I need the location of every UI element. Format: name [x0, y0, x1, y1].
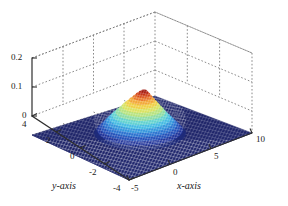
y-tick-label-4: -4: [113, 184, 121, 193]
z-tick-label-0: 0.2: [11, 53, 22, 62]
z-tick-label-1: 0.1: [11, 82, 22, 91]
surface-mesh: [20, 88, 265, 188]
y-tick-label-2: 0: [70, 152, 75, 161]
y-tick-label-0: 4: [22, 120, 27, 129]
y-axis-title: y-axis: [52, 181, 76, 191]
x-axis-title: x-axis: [177, 181, 201, 191]
x-tick-label-2: 5: [214, 152, 219, 161]
x-tick-label-3: 10: [256, 135, 265, 144]
y-tick-label-3: -2: [89, 168, 97, 177]
x-tick-label-1: 0: [173, 168, 178, 177]
surface-plot-figure: 0.2 0.1 0 4 2 0 -2 -4 -5 0 5 10 y-axis x…: [0, 0, 288, 206]
plot-canvas: [0, 0, 288, 206]
x-tick-label-0: -5: [131, 184, 139, 193]
y-tick-label-1: 2: [46, 136, 51, 145]
